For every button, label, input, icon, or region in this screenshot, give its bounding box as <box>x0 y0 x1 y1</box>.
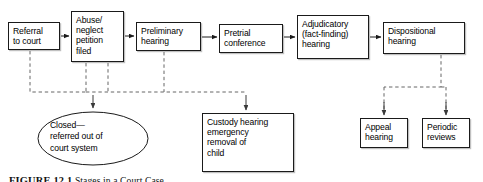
node-appeal-hearing: Appeal hearing <box>360 118 408 148</box>
node-adjudicatory-fact-finding-hearing: Adjudicatory (fact-finding) hearing <box>297 15 369 59</box>
node-closed-referred-out-of-court-system: Closed— referred out of court system <box>50 120 142 154</box>
edge-dispositional-split <box>384 55 446 87</box>
node-dispositional-hearing: Dispositional hearing <box>383 22 465 54</box>
node-pretrial-conference: Pretrial conference <box>219 24 283 53</box>
figure-caption: FIGURE 12.1 Stages in a Court Case <box>9 170 164 182</box>
dashed-edge-arrowheads <box>93 95 446 115</box>
node-referral-to-court: Referral to court <box>8 22 60 50</box>
node-custody-hearing-emergency-removal: Custody hearing emergency removal of chi… <box>202 113 294 172</box>
figure-container: Referral to court Abuse/ neglect petitio… <box>0 0 483 182</box>
node-periodic-reviews: Periodic reviews <box>422 118 470 148</box>
node-abuse-neglect-petition-filed: Abuse/ neglect petition filed <box>71 11 124 62</box>
figure-caption-title: Stages in a Court Case <box>75 175 164 182</box>
figure-caption-label: FIGURE 12.1 <box>9 175 72 182</box>
node-preliminary-hearing: Preliminary hearing <box>136 22 201 51</box>
